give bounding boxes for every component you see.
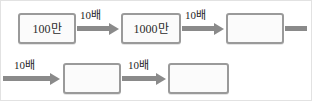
arrow-label-1: 10배 [80,10,101,21]
flow-node-label-2: 1000만 [134,23,169,35]
flow-arrow-1 [77,26,110,31]
flow-node-box-2[interactable]: 1000만 [121,13,181,44]
arrow-label-2: 10배 [185,10,206,21]
flow-node-box-5[interactable] [168,63,229,94]
flow-connector-stub-right [285,26,307,31]
flow-arrow-3 [3,76,51,81]
arrow-label-3: 10배 [14,60,35,71]
flow-node-box-3[interactable] [226,13,284,44]
arrow-label-4: 10배 [128,60,149,71]
flow-node-label-1: 100만 [33,23,62,35]
flow-arrow-4 [122,76,157,81]
flow-node-box-1[interactable]: 100만 [18,13,76,44]
flow-node-box-4[interactable] [63,63,121,94]
flow-arrow-2 [182,26,215,31]
diagram-canvas: 100만 10배 1000만 10배 10배 10배 [0,0,312,101]
